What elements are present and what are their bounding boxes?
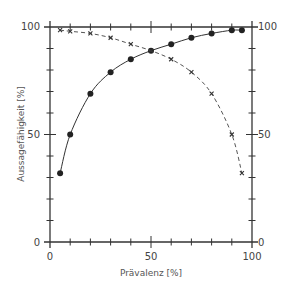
axes: [44, 21, 258, 248]
chart: 0 50 100 0 50 100 0 50 100 Prävalenz [%]…: [0, 0, 293, 294]
data-point-cross: [189, 70, 193, 74]
y-axis-title: Aussagefähigkeit [%]: [16, 86, 26, 182]
data-point-dot: [188, 35, 194, 41]
x-tick-label-100: 100: [242, 251, 261, 262]
series-layer: [57, 27, 245, 176]
y-left-tick-label-100: 100: [21, 21, 40, 32]
data-point-dot: [87, 91, 93, 97]
y-left-tick-label-50: 50: [27, 129, 40, 140]
data-point-dot: [57, 170, 63, 176]
data-point-cross: [230, 133, 234, 137]
y-right-tick-label-50: 50: [258, 129, 271, 140]
data-point-cross: [169, 57, 173, 61]
data-point-dot: [168, 41, 174, 47]
data-point-cross: [210, 92, 214, 96]
data-point-dot: [239, 27, 245, 33]
y-left-tick-label-0: 0: [34, 237, 40, 248]
data-point-dot: [229, 27, 235, 33]
x-axis-title: Prävalenz [%]: [120, 268, 182, 278]
data-point-dot: [67, 132, 73, 138]
x-tick-label-0: 0: [47, 251, 53, 262]
data-point-dot: [128, 56, 134, 62]
data-point-dot: [108, 69, 114, 75]
y-right-tick-label-100: 100: [258, 21, 277, 32]
x-tick-label-50: 50: [145, 251, 158, 262]
y-right-tick-label-0: 0: [258, 237, 264, 248]
data-point-dot: [209, 30, 215, 36]
